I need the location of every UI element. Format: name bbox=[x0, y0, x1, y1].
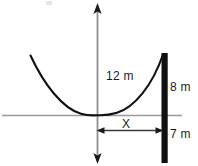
geometry-figure: 12 m 8 m 7 m X bbox=[0, 0, 198, 166]
figure-canvas bbox=[0, 0, 198, 166]
vertical-wall-bar bbox=[162, 53, 168, 163]
label-wall-lower-height: 7 m bbox=[170, 127, 191, 141]
label-wall-upper-height: 8 m bbox=[170, 80, 191, 94]
label-slant-length: 12 m bbox=[106, 69, 134, 83]
label-horizontal-distance: X bbox=[122, 117, 130, 131]
